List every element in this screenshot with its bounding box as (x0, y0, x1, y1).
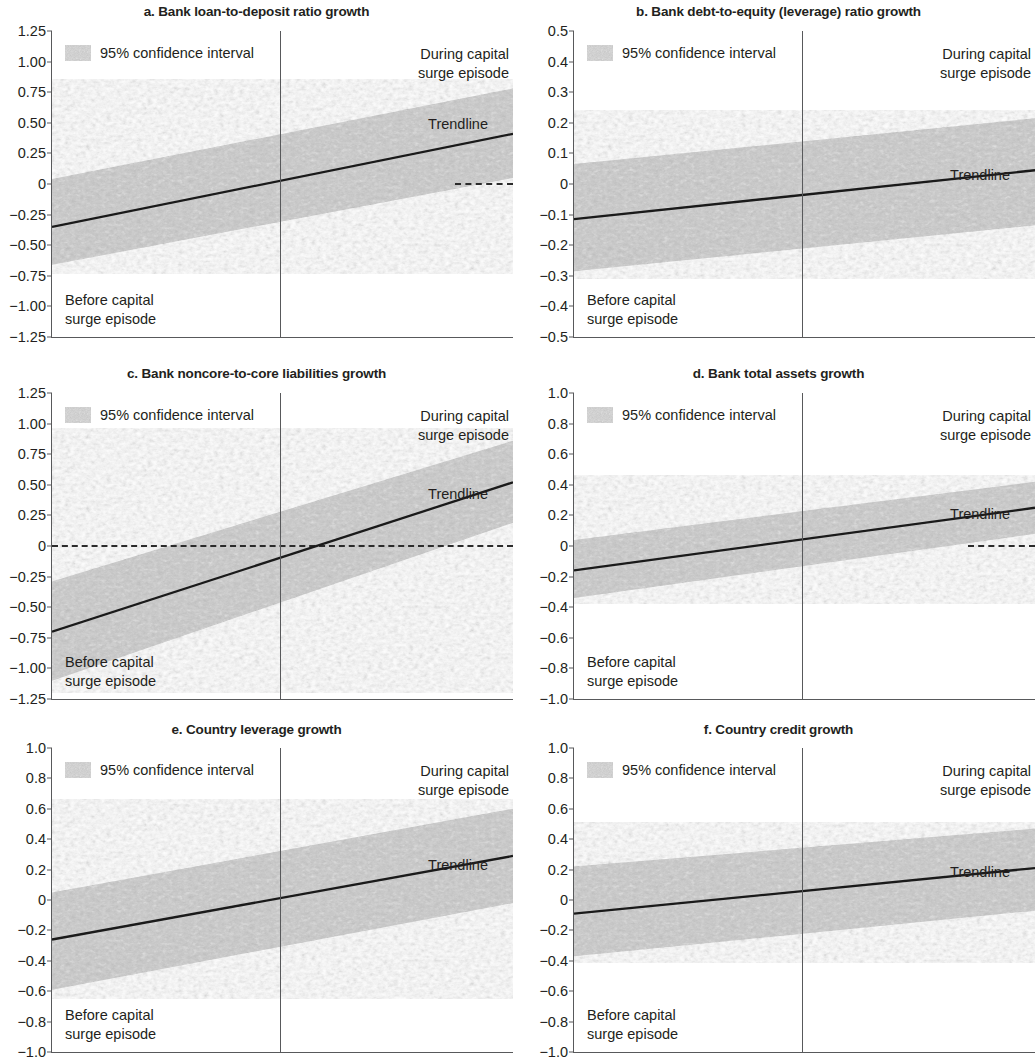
annotation-during-episode-b: During capital surge episode (940, 45, 1031, 83)
annotation-trendline-a: Trendline (428, 115, 488, 134)
episode-divider-f (802, 748, 803, 1052)
legend-d: 95% confidence interval (587, 407, 776, 423)
legend-label-confidence-interval: 95% confidence interval (100, 45, 254, 61)
y-tick-label: −0.6 (539, 630, 574, 646)
legend-swatch-confidence-interval (587, 45, 613, 61)
panel-title-a: a. Bank loan-to-deposit ratio growth (0, 4, 513, 19)
annotation-trendline-b: Trendline (950, 166, 1010, 185)
y-tick-label: 1.25 (18, 23, 52, 39)
y-tick-label: 0.50 (18, 115, 52, 131)
y-tick-label: 0.2 (548, 507, 574, 523)
y-tick-label: −1.00 (9, 298, 52, 314)
y-tick-label: −0.75 (9, 630, 52, 646)
y-tick-label: 0.75 (18, 84, 52, 100)
episode-divider-b (802, 31, 803, 337)
annotation-before-episode-e: Before capital surge episode (65, 1006, 156, 1044)
panel-title-d: d. Bank total assets growth (522, 366, 1035, 381)
plot-area-b: 0.50.40.30.20.10−0.1−0.2−0.3−0.4−0.595% … (573, 31, 1035, 338)
y-tick-label: −0.75 (9, 268, 52, 284)
y-tick-label: −1.0 (539, 1044, 574, 1060)
annotation-trendline-f: Trendline (950, 863, 1010, 882)
trendline-a (52, 134, 513, 227)
y-tick-label: 0.25 (18, 145, 52, 161)
y-tick-label: −0.6 (539, 983, 574, 999)
y-tick-label: −0.4 (539, 599, 574, 615)
y-tick-label: −0.50 (9, 237, 52, 253)
y-tick-label: −1.0 (539, 691, 574, 707)
legend-label-confidence-interval: 95% confidence interval (100, 762, 254, 778)
y-tick-label: 0.8 (548, 770, 574, 786)
y-tick-label: −0.3 (539, 268, 574, 284)
plot-area-e: 1.00.80.60.40.20−0.2−0.4−0.6−0.8−1.095% … (51, 748, 513, 1053)
y-tick-label: 0.4 (548, 477, 574, 493)
y-tick-label: 0.75 (18, 446, 52, 462)
annotation-before-episode-f: Before capital surge episode (587, 1006, 678, 1044)
annotation-during-episode-d: During capital surge episode (940, 407, 1031, 445)
y-tick-label: 0.3 (548, 84, 574, 100)
legend-b: 95% confidence interval (587, 45, 776, 61)
episode-divider-c (280, 393, 281, 699)
y-tick-label: 0.2 (26, 862, 52, 878)
y-tick-label: 0 (38, 538, 52, 554)
plot-area-f: 1.00.80.60.40.20−0.2−0.4−0.6−0.8−1.095% … (573, 748, 1035, 1053)
legend-swatch-confidence-interval (65, 762, 91, 778)
annotation-trendline-c: Trendline (428, 485, 488, 504)
y-tick-label: −0.2 (539, 922, 574, 938)
legend-label-confidence-interval: 95% confidence interval (100, 407, 254, 423)
y-tick-label: 0 (38, 176, 52, 192)
y-tick-label: −0.2 (17, 922, 52, 938)
y-tick-label: 0 (560, 538, 574, 554)
y-tick-label: 0.25 (18, 507, 52, 523)
y-tick-label: 1.0 (548, 385, 574, 401)
y-tick-label: −0.4 (539, 953, 574, 969)
y-tick-label: −0.25 (9, 207, 52, 223)
episode-divider-d (802, 393, 803, 699)
legend-swatch-confidence-interval (587, 407, 613, 423)
y-tick-label: −0.50 (9, 599, 52, 615)
legend-f: 95% confidence interval (587, 762, 776, 778)
annotation-before-episode-d: Before capital surge episode (587, 653, 678, 691)
y-tick-label: −1.25 (9, 329, 52, 345)
legend-c: 95% confidence interval (65, 407, 254, 423)
plot-area-a: 1.251.000.750.500.250−0.25−0.50−0.75−1.0… (51, 31, 513, 338)
y-tick-label: 0.6 (548, 446, 574, 462)
y-tick-label: 0.2 (548, 115, 574, 131)
y-tick-label: −0.4 (17, 953, 52, 969)
y-tick-label: 0 (38, 892, 52, 908)
annotation-during-episode-a: During capital surge episode (418, 45, 509, 83)
annotation-during-episode-e: During capital surge episode (418, 762, 509, 800)
annotation-during-episode-c: During capital surge episode (418, 407, 509, 445)
y-tick-label: −1.00 (9, 660, 52, 676)
annotation-trendline-d: Trendline (950, 505, 1010, 524)
y-tick-label: −0.8 (539, 1014, 574, 1030)
y-tick-label: −0.5 (539, 329, 574, 345)
panel-title-c: c. Bank noncore-to-core liabilities grow… (0, 366, 513, 381)
y-tick-label: −0.1 (539, 207, 574, 223)
y-tick-label: −0.8 (17, 1014, 52, 1030)
y-tick-label: −0.2 (539, 569, 574, 585)
y-tick-label: 1.00 (18, 54, 52, 70)
panel-title-e: e. Country leverage growth (0, 722, 513, 737)
y-tick-label: 0 (560, 892, 574, 908)
y-tick-label: 1.00 (18, 416, 52, 432)
y-tick-label: 0.5 (548, 23, 574, 39)
y-tick-label: 0.8 (26, 770, 52, 786)
annotation-during-episode-f: During capital surge episode (940, 762, 1031, 800)
trendline-c (52, 482, 513, 631)
y-tick-label: 0.4 (548, 54, 574, 70)
annotation-before-episode-b: Before capital surge episode (587, 291, 678, 329)
y-tick-label: 0.50 (18, 477, 52, 493)
annotation-trendline-e: Trendline (428, 856, 488, 875)
episode-divider-e (280, 748, 281, 1052)
y-tick-label: −0.4 (539, 298, 574, 314)
y-tick-label: 1.0 (26, 740, 52, 756)
annotation-before-episode-a: Before capital surge episode (65, 291, 156, 329)
y-tick-label: −0.2 (539, 237, 574, 253)
y-tick-label: 1.25 (18, 385, 52, 401)
plot-area-c: 1.251.000.750.500.250−0.25−0.50−0.75−1.0… (51, 393, 513, 700)
episode-divider-a (280, 31, 281, 337)
y-tick-label: 0.8 (548, 416, 574, 432)
legend-label-confidence-interval: 95% confidence interval (622, 45, 776, 61)
plot-area-d: 1.00.80.60.40.20−0.2−0.4−0.6−0.8−1.095% … (573, 393, 1035, 700)
